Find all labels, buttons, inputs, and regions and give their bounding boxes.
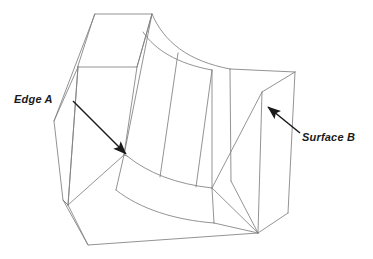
fillet-ruling-lines: [124, 14, 212, 187]
upper-block-front-face: [68, 67, 137, 205]
edge-a-leader-arrow: [73, 101, 126, 154]
technical-drawing: [0, 0, 373, 259]
figure-canvas: Edge A Surface B: [0, 0, 373, 259]
fillet-lower-curve-back: [116, 190, 214, 223]
upper-block-top-face: [78, 14, 152, 67]
edge-a-label: Edge A: [14, 93, 53, 105]
fillet-inner-curve: [143, 32, 212, 70]
base-slab-top-face: [212, 69, 295, 188]
base-slab-front-face: [212, 92, 262, 233]
fillet-upper-curve: [152, 14, 230, 69]
surface-b-leader-arrow: [268, 107, 300, 133]
surface-b-label: Surface B: [302, 131, 355, 143]
base-slab-right-face: [258, 72, 295, 233]
base-bottom-face: [63, 155, 258, 245]
